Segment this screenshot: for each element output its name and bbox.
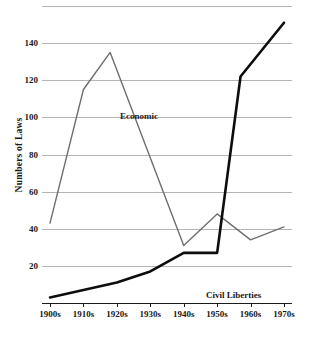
x-axis-tick-label: 1960s [240, 310, 262, 319]
x-axis-tick [284, 303, 285, 307]
x-axis-tick-label: 1970s [273, 310, 295, 319]
x-axis-tick-label: 1940s [173, 310, 195, 319]
x-axis-tick-label: 1930s [140, 310, 162, 319]
x-axis-tick-label: 1920s [106, 310, 128, 319]
economic-series-label: Economic [120, 112, 158, 121]
x-axis-tick [217, 303, 218, 307]
series-lines-group [42, 6, 292, 303]
y-axis-tick-label: 40 [29, 224, 38, 233]
y-axis-tick-label: 120 [25, 76, 39, 85]
x-axis-tick-label: 1900s [39, 310, 61, 319]
y-axis-tick-label: 100 [25, 113, 39, 122]
x-axis-tick-label: 1950s [206, 310, 228, 319]
plot-area: 20406080100120140 Economic Civil Liberti… [42, 6, 292, 303]
civil-liberties-series-line [50, 23, 284, 298]
x-axis-tick [117, 303, 118, 307]
y-axis-tick-label: 20 [29, 261, 38, 270]
x-axis-tick-label: 1910s [73, 310, 95, 319]
x-axis-tick [184, 303, 185, 307]
civil-liberties-series-label: Civil Liberties [206, 291, 261, 300]
x-axis-tick [251, 303, 252, 307]
line-chart-figure: Numbers of Laws 20406080100120140 Econom… [0, 0, 311, 341]
y-axis-tick-label: 60 [29, 187, 38, 196]
y-axis-title: Numbers of Laws [14, 95, 24, 215]
economic-series-line [50, 52, 284, 245]
y-axis-tick-label: 80 [29, 150, 38, 159]
x-axis-line [42, 303, 292, 304]
x-axis-tick [150, 303, 151, 307]
y-axis-tick-label: 140 [25, 39, 39, 48]
x-axis-tick [50, 303, 51, 307]
x-axis-tick [83, 303, 84, 307]
